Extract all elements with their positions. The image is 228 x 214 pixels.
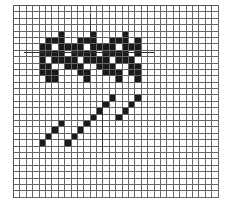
vertical-guide-line-top <box>90 14 91 50</box>
pattern-grid <box>13 5 219 198</box>
empty-cell <box>212 191 218 197</box>
vertical-guide-line-bottom <box>102 100 103 152</box>
horizontal-guide-line <box>24 52 154 53</box>
